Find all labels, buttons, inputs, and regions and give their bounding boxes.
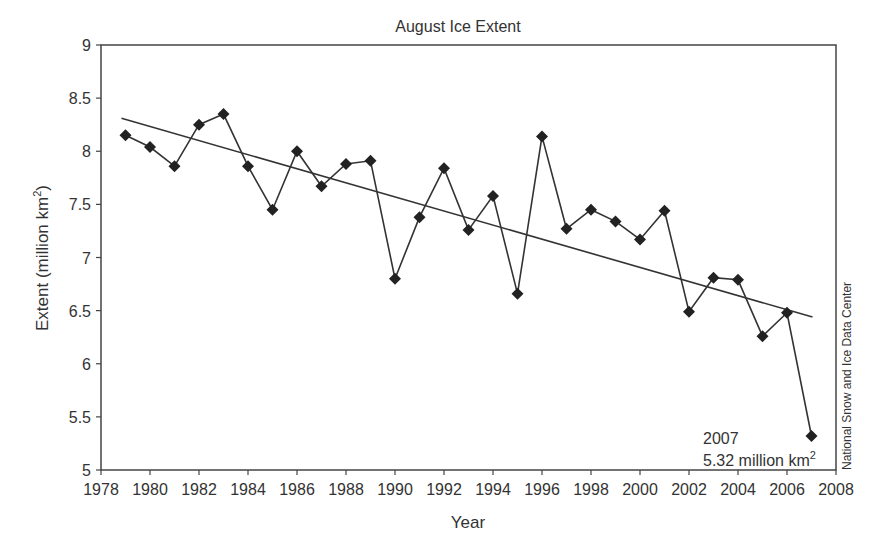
data-point-diamond-icon xyxy=(708,272,720,284)
annotation-year: 2007 xyxy=(703,430,739,447)
data-point-diamond-icon xyxy=(463,224,475,236)
y-tick-label: 7.5 xyxy=(69,196,91,213)
trend-line xyxy=(122,118,813,317)
data-point-diamond-icon xyxy=(512,288,524,300)
data-point-diamond-icon xyxy=(389,273,401,285)
x-tick-label: 1986 xyxy=(279,481,315,498)
y-tick-label: 5.5 xyxy=(69,409,91,426)
x-tick-label: 2008 xyxy=(818,481,854,498)
y-tick-label: 5 xyxy=(82,462,91,479)
data-point-diamond-icon xyxy=(487,190,499,202)
y-tick-label: 8 xyxy=(82,143,91,160)
x-tick-label: 1978 xyxy=(83,481,119,498)
x-tick-label: 1982 xyxy=(181,481,217,498)
chart-canvas: August Ice Extent 55.566.577.588.59 1978… xyxy=(0,0,888,560)
data-point-diamond-icon xyxy=(242,160,254,172)
y-axis-label: Extent (million km2) xyxy=(31,185,52,331)
x-tick-label: 1984 xyxy=(230,481,266,498)
data-point-diamond-icon xyxy=(120,129,132,141)
data-point-diamond-icon xyxy=(438,162,450,174)
x-axis: 1978198019821984198619881990199219941996… xyxy=(83,470,854,498)
data-point-diamond-icon xyxy=(365,155,377,167)
y-tick-label: 6 xyxy=(82,356,91,373)
x-tick-label: 2006 xyxy=(769,481,805,498)
y-tick-label: 9 xyxy=(82,37,91,54)
x-tick-label: 1996 xyxy=(524,481,560,498)
data-point-diamond-icon xyxy=(414,211,426,223)
plot-frame xyxy=(101,45,836,470)
x-tick-label: 1980 xyxy=(132,481,168,498)
x-tick-label: 1992 xyxy=(426,481,462,498)
x-tick-label: 1998 xyxy=(573,481,609,498)
data-point-diamond-icon xyxy=(267,204,279,216)
x-tick-label: 2000 xyxy=(622,481,658,498)
data-series-line xyxy=(126,114,812,436)
y-tick-label: 7 xyxy=(82,250,91,267)
data-point-diamond-icon xyxy=(732,274,744,286)
data-point-diamond-icon xyxy=(291,145,303,157)
x-axis-label: Year xyxy=(451,513,486,532)
data-point-diamond-icon xyxy=(193,119,205,131)
data-point-diamond-icon xyxy=(536,130,548,142)
y-tick-label: 6.5 xyxy=(69,303,91,320)
data-markers xyxy=(120,108,818,442)
annotation-value: 5.32 million km2 xyxy=(703,449,816,469)
source-credit: National Snow and Ice Data Center xyxy=(840,282,854,470)
chart-title: August Ice Extent xyxy=(395,18,521,35)
x-tick-label: 2004 xyxy=(720,481,756,498)
y-tick-label: 8.5 xyxy=(69,90,91,107)
y-axis: 55.566.577.588.59 xyxy=(69,37,101,479)
x-tick-label: 1990 xyxy=(377,481,413,498)
data-point-diamond-icon xyxy=(806,430,818,442)
x-tick-label: 1994 xyxy=(475,481,511,498)
data-point-diamond-icon xyxy=(610,215,622,227)
data-point-diamond-icon xyxy=(683,306,695,318)
data-point-diamond-icon xyxy=(218,108,230,120)
x-tick-label: 1988 xyxy=(328,481,364,498)
x-tick-label: 2002 xyxy=(671,481,707,498)
